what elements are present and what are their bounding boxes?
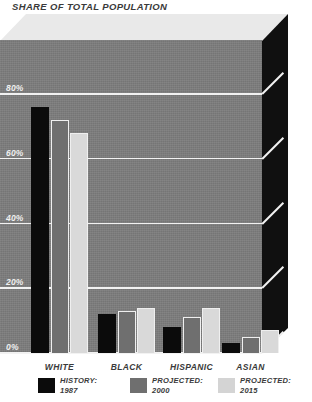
chart-legend: HISTORY:1987PROJECTED:2000PROJECTED:2015 [0, 377, 312, 402]
legend-series-year: 1987 [60, 386, 97, 396]
legend-swatch-2000 [130, 378, 147, 393]
x-tick-label-hispanic: HISPANIC [170, 362, 213, 372]
bar-white-1987 [31, 107, 49, 353]
bar-white-2000 [51, 120, 69, 353]
bar-hispanic-1987 [163, 327, 181, 353]
bar-series-layer [0, 40, 262, 353]
legend-swatch-1987 [38, 378, 55, 393]
chart-3d-box: 0%20%40%60%80% [0, 14, 312, 358]
legend-series-name: HISTORY: [60, 376, 97, 386]
bar-black-2000 [118, 311, 136, 353]
x-tick-label-white: WHITE [45, 362, 74, 372]
bar-hispanic-2000 [183, 317, 201, 353]
legend-label-2015: PROJECTED:2015 [240, 376, 291, 395]
legend-series-name: PROJECTED: [152, 376, 203, 386]
legend-label-1987: HISTORY:1987 [60, 376, 97, 395]
chart-top-face [0, 14, 312, 41]
legend-series-year: 2000 [152, 386, 203, 396]
legend-swatch-2015 [218, 378, 235, 393]
bar-asian-1987 [222, 343, 240, 353]
x-tick-label-black: BLACK [111, 362, 143, 372]
page-title: SHARE OF TOTAL POPULATION [12, 1, 167, 12]
legend-series-name: PROJECTED: [240, 376, 291, 386]
legend-label-2000: PROJECTED:2000 [152, 376, 203, 395]
bar-asian-2000 [242, 337, 260, 353]
bar-hispanic-2015 [202, 308, 220, 353]
legend-series-year: 2015 [240, 386, 291, 396]
chart-right-face [262, 14, 312, 358]
bar-black-1987 [98, 314, 116, 353]
bar-asian-2015 [261, 330, 279, 353]
x-tick-label-asian: ASIAN [236, 362, 264, 372]
bar-white-2015 [70, 133, 88, 353]
bar-black-2015 [137, 308, 155, 353]
